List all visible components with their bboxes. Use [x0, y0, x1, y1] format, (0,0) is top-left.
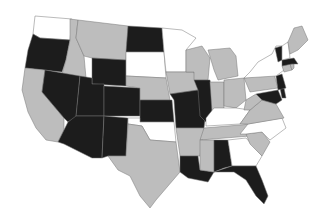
state-oh [224, 78, 246, 108]
state-sd [126, 52, 166, 78]
state-in [210, 82, 224, 112]
state-ks [140, 100, 174, 122]
state-nm [102, 116, 128, 158]
state-me [288, 26, 308, 54]
state-nj [276, 74, 286, 90]
state-wy [92, 58, 126, 86]
state-wa [33, 16, 72, 40]
state-ms [200, 140, 214, 172]
state-co [104, 86, 140, 116]
us-choropleth-map [0, 0, 317, 220]
state-fl [214, 166, 268, 204]
state-az [58, 116, 104, 158]
state-nd [126, 26, 164, 52]
states-layer [22, 16, 308, 208]
state-mi [208, 48, 238, 80]
state-mt [76, 20, 128, 60]
state-or [25, 34, 70, 72]
